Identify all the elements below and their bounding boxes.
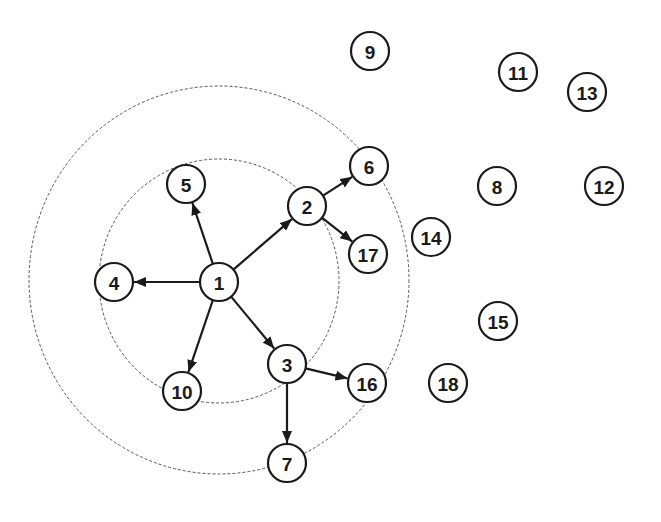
node-15: 15 [479, 302, 517, 340]
node-1: 1 [200, 263, 238, 301]
node-4: 4 [95, 263, 133, 301]
edge-3-to-16 [306, 368, 348, 378]
node-3: 3 [268, 345, 306, 383]
node-label: 5 [181, 175, 192, 196]
network-graph: 123456789101112131415161718 [0, 0, 661, 522]
node-label: 8 [492, 177, 503, 198]
node-13: 13 [568, 73, 606, 111]
node-18: 18 [429, 364, 467, 402]
node-7: 7 [268, 444, 306, 482]
node-label: 18 [437, 374, 458, 395]
node-label: 7 [282, 454, 293, 475]
node-label: 10 [171, 382, 192, 403]
node-2: 2 [288, 187, 326, 225]
node-9: 9 [351, 32, 389, 70]
node-label: 4 [109, 273, 120, 294]
node-label: 2 [302, 197, 313, 218]
node-8: 8 [478, 167, 516, 205]
node-label: 16 [356, 374, 377, 395]
node-label: 17 [357, 245, 378, 266]
node-label: 13 [576, 83, 597, 104]
node-11: 11 [499, 53, 537, 91]
node-5: 5 [167, 165, 205, 203]
nodes: 123456789101112131415161718 [95, 32, 623, 482]
node-label: 6 [364, 157, 375, 178]
node-label: 15 [487, 312, 509, 333]
node-17: 17 [349, 235, 387, 273]
node-label: 3 [282, 355, 293, 376]
node-label: 12 [593, 177, 614, 198]
node-10: 10 [163, 372, 201, 410]
edge-2-to-17 [322, 218, 352, 242]
edge-1-to-3 [231, 297, 274, 349]
edge-1-to-5 [192, 203, 213, 264]
node-label: 9 [365, 42, 376, 63]
node-14: 14 [412, 218, 450, 256]
node-label: 11 [508, 63, 529, 84]
node-16: 16 [348, 364, 386, 402]
edge-1-to-2 [233, 219, 292, 270]
node-label: 1 [214, 273, 225, 294]
edge-1-to-10 [188, 300, 213, 372]
node-label: 14 [420, 228, 442, 249]
node-6: 6 [350, 147, 388, 185]
node-12: 12 [585, 167, 623, 205]
edge-2-to-6 [323, 177, 352, 196]
